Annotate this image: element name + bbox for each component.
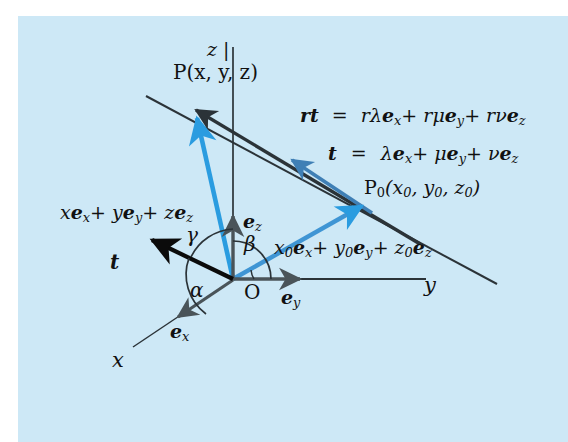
unit-vector-ex-label: ex bbox=[170, 322, 189, 344]
rt-equation-lhs: rt bbox=[300, 104, 319, 126]
angle-beta-label: β bbox=[244, 234, 256, 254]
origin-label: O bbox=[244, 282, 260, 302]
point-P0-subscript: 0 bbox=[377, 185, 385, 200]
t-vector-black-label: t bbox=[110, 252, 119, 272]
angle-gamma-label: γ bbox=[186, 225, 198, 245]
unit-vector-ez-label: ez bbox=[243, 212, 262, 234]
unit-vector-ex-arrow bbox=[178, 280, 233, 317]
rt-equation: rt = rλex+ rμey+ rνez bbox=[300, 106, 526, 128]
x-axis-label: x bbox=[112, 350, 124, 371]
point-P-label: P(x, y, z) bbox=[173, 62, 258, 82]
t-equation-equals: = bbox=[343, 142, 375, 164]
unit-vector-ey-label: ey bbox=[281, 288, 300, 310]
point-P0-label: P0(x0, y0, z0) bbox=[364, 178, 480, 200]
y-axis-label: y bbox=[424, 275, 436, 296]
point-P0-base: P bbox=[364, 176, 377, 198]
position-vector-P-arrow bbox=[197, 118, 233, 279]
t-equation-lhs: t bbox=[328, 142, 337, 164]
angle-alpha-label: α bbox=[190, 280, 204, 300]
rt-equation-equals: = bbox=[325, 104, 355, 126]
figure-root: z | P(x, y, z) rt = rλex+ rμey+ rνez t =… bbox=[0, 0, 568, 442]
t-equation-rhs: λex+ μey+ νez bbox=[381, 142, 519, 164]
z-axis-label: z | bbox=[207, 40, 229, 59]
position-vector-P-label: xex+ yey+ zez bbox=[60, 203, 193, 225]
position-vector-P0-label: x0ex+ y0ey+ z0ez bbox=[274, 238, 432, 260]
rt-equation-rhs: rλex+ rμey+ rνez bbox=[361, 104, 526, 126]
t-equation: t = λex+ μey+ νez bbox=[328, 144, 518, 166]
